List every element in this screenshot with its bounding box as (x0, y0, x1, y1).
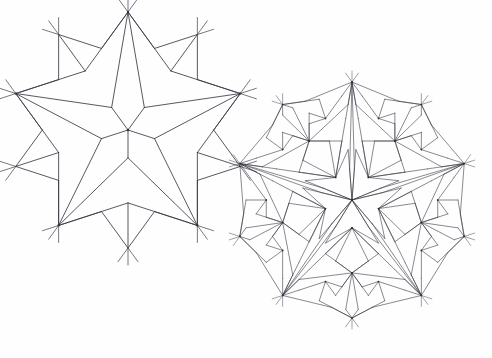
vertex-dot (351, 227, 353, 229)
vertex-dot (325, 118, 327, 120)
tiling-canvas (0, 0, 492, 358)
vertex-dot (325, 281, 327, 283)
page-background (0, 0, 492, 358)
vertex-dot (308, 140, 310, 142)
vertex-dot (127, 129, 129, 131)
vertex-dot (378, 118, 380, 120)
vertex-dot (378, 208, 380, 210)
vertex-dot (351, 199, 353, 201)
vertex-dot (378, 281, 380, 283)
vertex-dot (282, 149, 284, 151)
vertex-dot (368, 177, 370, 179)
vertex-dot (437, 199, 439, 201)
vertex-dot (394, 140, 396, 142)
vertex-dot (325, 208, 327, 210)
vertex-dot (282, 250, 284, 252)
vertex-dot (265, 199, 267, 201)
vertex-dot (351, 272, 353, 274)
penrose-figure-page (0, 0, 492, 358)
vertex-dot (421, 250, 423, 252)
vertex-dot (282, 222, 284, 224)
vertex-dot (335, 177, 337, 179)
vertex-dot (421, 222, 423, 224)
vertex-dot (421, 149, 423, 151)
